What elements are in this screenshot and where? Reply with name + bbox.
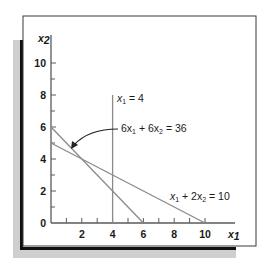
y-tick-label-4: 4 bbox=[40, 153, 46, 165]
black-shadow-bottom bbox=[20, 247, 236, 250]
y-tick-label-6: 6 bbox=[40, 121, 46, 133]
x-tick-label-6: 6 bbox=[140, 228, 146, 240]
origin-label: 0 bbox=[40, 217, 46, 229]
y-tick-label-8: 8 bbox=[40, 89, 46, 101]
x-tick-label-4: 4 bbox=[110, 228, 116, 240]
y-tick-label-10: 10 bbox=[34, 57, 46, 69]
x-tick-label-8: 8 bbox=[171, 228, 177, 240]
y-axis-title: x2 bbox=[37, 32, 50, 46]
chart-svg: 10 8 6 4 2 0 2 4 6 8 10 x2 x1 x1 = 4 6x1… bbox=[0, 0, 270, 267]
y-tick-label-2: 2 bbox=[40, 185, 46, 197]
gray-shadow-bottom bbox=[13, 250, 236, 258]
figure: 10 8 6 4 2 0 2 4 6 8 10 x2 x1 x1 = 4 6x1… bbox=[0, 0, 270, 267]
gray-shadow bbox=[13, 40, 21, 258]
x-tick-label-10: 10 bbox=[199, 228, 211, 240]
label-6x1-6x2-36: 6x1 + 6x2 = 36 bbox=[121, 122, 187, 135]
x-tick-label-2: 2 bbox=[79, 228, 85, 240]
label-x1-eq-4: x1 = 4 bbox=[116, 92, 144, 105]
x-axis-title: x1 bbox=[227, 228, 240, 242]
